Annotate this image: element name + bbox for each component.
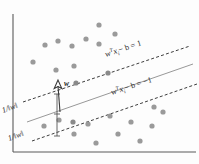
support-vector-point <box>105 70 110 75</box>
eq-lower-rest: − b = −1 <box>123 75 153 92</box>
margin-upper-label-group: 1/‖w‖ <box>1 101 19 115</box>
data-point <box>128 119 133 124</box>
margin-lower-label: 1/‖w‖ <box>7 129 25 143</box>
svm-diagram-canvas: wTxi− b = 1 wTxi− b = −1 1/‖w‖ 1/‖w‖ w <box>0 0 199 164</box>
svm-margin-figure: wTxi− b = 1 wTxi− b = −1 1/‖w‖ 1/‖w‖ w <box>0 0 199 164</box>
data-point <box>42 42 47 47</box>
support-vector-point <box>70 119 75 124</box>
svg-text:wTxi− b = 1: wTxi− b = 1 <box>104 38 143 60</box>
data-point <box>53 67 58 72</box>
eq-upper-rest: − b = 1 <box>117 39 143 55</box>
data-point <box>151 104 156 109</box>
margin-upper-label: 1/‖w‖ <box>1 101 19 115</box>
data-point <box>160 109 165 114</box>
lower-margin-equation-label: wTxi− b = −1 <box>110 74 154 98</box>
data-point <box>112 31 117 36</box>
data-point <box>71 131 76 136</box>
data-point <box>41 123 46 128</box>
data-point <box>71 63 76 68</box>
normal-vector-arrow <box>54 80 62 112</box>
data-point <box>69 43 74 48</box>
data-point <box>96 41 101 46</box>
margin-lower-label-group: 1/‖w‖ <box>7 129 25 143</box>
data-point <box>55 38 60 43</box>
data-point <box>93 140 98 145</box>
upper-margin-equation-label: wTxi− b = 1 <box>104 38 143 60</box>
support-vectors-lower <box>70 119 75 124</box>
svg-text:wTxi− b = −1: wTxi− b = −1 <box>110 74 154 98</box>
data-point <box>85 121 90 126</box>
data-point <box>107 113 112 118</box>
data-point <box>30 59 35 64</box>
data-point <box>149 123 154 128</box>
plot-axes <box>13 14 196 152</box>
data-point <box>83 36 88 41</box>
data-point <box>96 22 101 27</box>
support-vector-point <box>73 80 78 85</box>
scatter-points-upper <box>30 22 117 72</box>
data-point <box>137 138 142 143</box>
data-point <box>115 131 120 136</box>
